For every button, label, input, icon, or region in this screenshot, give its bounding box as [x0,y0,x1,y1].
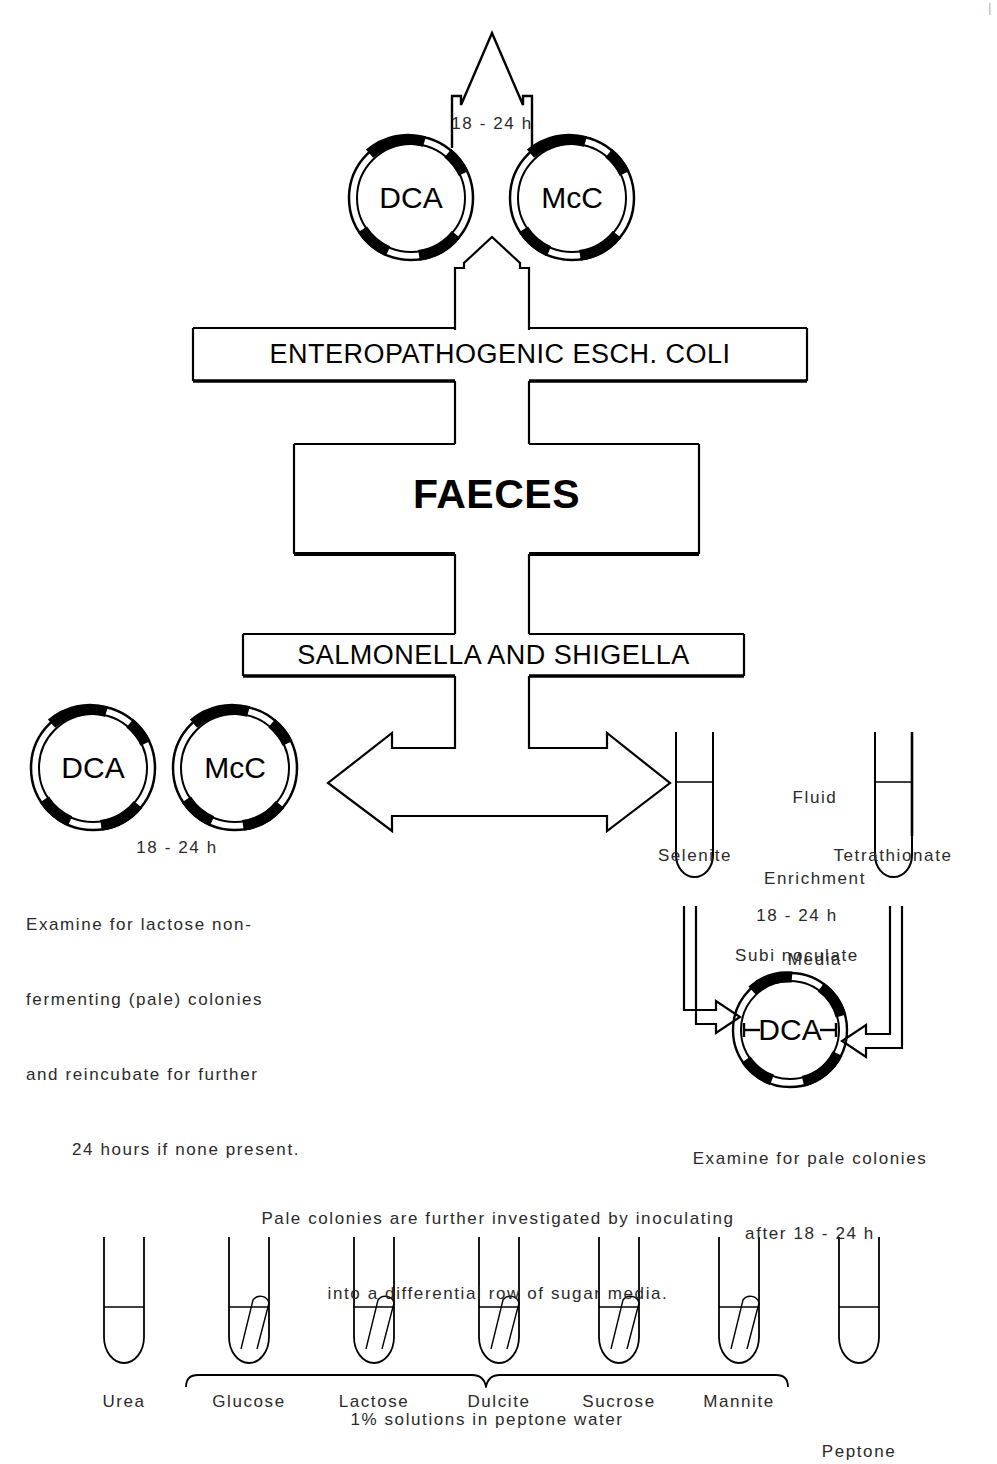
box-label-enteropathogenic: ENTEROPATHOGENIC ESCH. COLI [193,339,807,370]
plate-label-dca-top: DCA [361,181,461,215]
sugar-caption-line-1: Pale colonies are further investigated b… [198,1206,798,1231]
sugar-label-urea: Urea [64,1392,184,1412]
sugar-label-glucose: Glucose [189,1392,309,1412]
right-incubation-label: 18 - 24 h [712,906,882,926]
sugar-label-lactose: Lactose [314,1392,434,1412]
left-note-line-2: fermenting (pale) colonies [26,987,346,1012]
sugar-label-sucrose: Sucrose [559,1392,679,1412]
sugar-section-caption: Pale colonies are further investigated b… [198,1156,798,1356]
left-incubation-label: 18 - 24 h [22,838,332,858]
plate-label-dca-left: DCA [43,751,143,785]
arrow-double-plates-enrichment [328,676,670,831]
sugar-caption-line-2: into a differential row of sugar media. [198,1281,798,1306]
diagram-canvas: | [0,0,997,1464]
plate-label-mcc-top: McC [522,181,622,215]
sugar-label-mannite: Mannite [679,1392,799,1412]
subinoculate-label: Subi noculate [702,946,892,966]
sugar-label-peptone: Peptone water [799,1392,919,1464]
top-outflow-arrow [452,33,532,107]
left-note-line-3: and reincubate for further [26,1062,346,1087]
sugar-label-peptone-line-1: Peptone [799,1440,919,1464]
arrow-esch-to-plates [455,237,529,330]
plate-label-mcc-left: McC [185,751,285,785]
top-incubation-label: 18 - 24 h [392,114,592,134]
sugar-label-dulcite: Dulcite [439,1392,559,1412]
left-note-line-1: Examine for lactose non- [26,912,346,937]
box-label-faeces: FAECES [294,471,699,518]
sugar-tube-urea [104,1237,144,1363]
tube-label-tetrathionate: Tetrathionate [818,846,968,866]
enrichment-heading-line-2: Enrichment [735,865,895,892]
tube-label-selenite: Selenite [630,846,760,866]
sugar-brace [186,1375,788,1387]
enrichment-media-heading: Fluid Enrichment Media [735,730,895,1027]
enrichment-heading-line-1: Fluid [735,784,895,811]
plate-label-dca-lower: DCA [740,1013,840,1047]
sugar-brace-caption: 1% solutions in peptone water [186,1410,788,1430]
box-label-salmonella: SALMONELLA AND SHIGELLA [243,640,744,671]
